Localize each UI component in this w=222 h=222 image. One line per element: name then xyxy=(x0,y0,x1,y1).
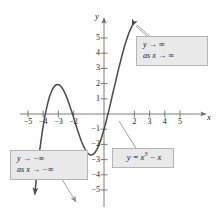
callout-equation-label: y = x3 − x xyxy=(112,148,174,168)
x-tick-label-2: 2 xyxy=(128,117,140,126)
x-tick-label-4: 4 xyxy=(159,117,171,126)
y-tick-label-5: 5 xyxy=(88,33,100,42)
y-tick-label-3: 3 xyxy=(88,63,100,72)
x-tick-label--5: −5 xyxy=(20,117,36,126)
x-tick-label--2: −2 xyxy=(66,117,82,126)
plot-canvas xyxy=(0,0,222,222)
cubic-function-figure: x y −5 −4 −3 −2 2 3 4 5 5 4 3 2 1 −1 −2 … xyxy=(0,0,222,222)
equation-lhs: y = x xyxy=(127,152,145,162)
y-axis-label: y xyxy=(95,11,99,21)
y-tick-label-1: 1 xyxy=(88,94,100,103)
y-tick-label--2: −2 xyxy=(82,139,100,148)
x-tick-label--4: −4 xyxy=(35,117,51,126)
x-tick-label-3: 3 xyxy=(144,117,156,126)
callout-positive-line2: as x → ∞ xyxy=(143,51,202,62)
x-tick-label--3: −3 xyxy=(50,117,66,126)
callout-positive-line1: y → ∞ xyxy=(143,40,202,51)
callout-negative-line2: as x → −∞ xyxy=(17,165,82,176)
y-tick-label--5: −5 xyxy=(82,185,100,194)
x-tick-label-5: 5 xyxy=(174,117,186,126)
x-axis-label: x xyxy=(207,112,211,122)
equation-rhs: − x xyxy=(147,152,161,162)
callout-negative-line1: y → −∞ xyxy=(17,154,82,165)
y-tick-label--1: −1 xyxy=(82,124,100,133)
callout-negative-end-behavior: y → −∞ as x → −∞ xyxy=(10,150,88,180)
callout-positive-end-behavior: y → ∞ as x → ∞ xyxy=(136,36,208,66)
y-tick-label-4: 4 xyxy=(88,48,100,57)
y-tick-label-2: 2 xyxy=(88,79,100,88)
